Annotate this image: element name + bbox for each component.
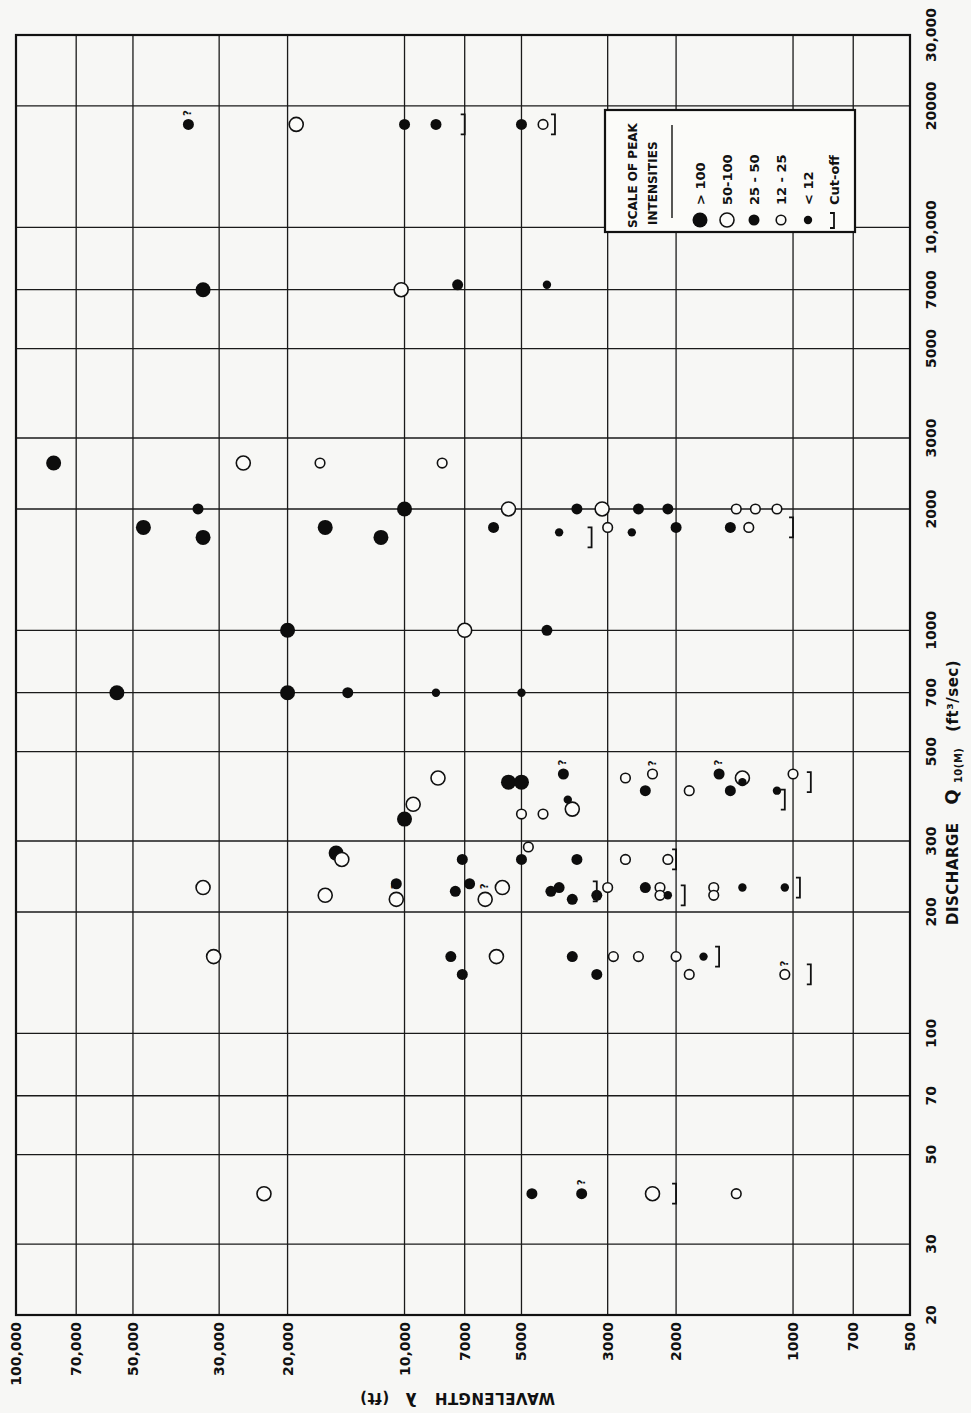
data-point-small-filled	[738, 883, 746, 891]
svg-text:?: ?	[479, 883, 490, 889]
svg-text:10,000: 10,000	[397, 1322, 413, 1376]
cutoff-bracket	[715, 947, 719, 967]
legend-label: < 12	[801, 171, 816, 205]
wavelength-title-text: WAVELENGTH	[434, 1389, 555, 1407]
data-point-large-filled	[514, 775, 529, 790]
data-point-small-open	[538, 809, 548, 819]
wavelength-tick: 7000	[457, 1322, 473, 1361]
discharge-tick: 20	[923, 1305, 939, 1325]
cutoff-brackets	[461, 114, 811, 1203]
discharge-tick: 1000	[923, 611, 939, 650]
uncertain-mark: ?	[557, 759, 568, 765]
cutoff-bracket	[807, 964, 811, 984]
data-point-medium-filled	[450, 886, 461, 897]
svg-text:7000: 7000	[457, 1322, 473, 1361]
data-point-small-open	[684, 786, 694, 796]
data-point-large-filled	[280, 685, 295, 700]
data-point-medium-filled	[662, 503, 673, 514]
legend-label: 12 - 25	[774, 154, 789, 205]
data-point-medium-filled	[725, 785, 736, 796]
log-log-scatter-chart: 2030507010020030050070010002000300050007…	[0, 0, 971, 1413]
data-point-small-open	[648, 769, 658, 779]
data-point-large-open	[207, 950, 221, 964]
data-point-small-filled	[664, 891, 672, 899]
data-point-small-open	[731, 504, 741, 514]
svg-text:WAVELENGTH λ (ft): WAVELENGTH λ (ft)	[360, 1389, 555, 1410]
data-point-large-open	[394, 283, 408, 297]
data-point-large-open	[257, 1187, 271, 1201]
wavelength-tick: 10,000	[397, 1322, 413, 1376]
wavelength-tick-labels: 100,00070,00050,00030,00020,00010,000700…	[8, 1322, 918, 1386]
data-point-large-open	[431, 771, 445, 785]
data-point-small-open	[634, 952, 644, 962]
wavelength-tick: 5000	[513, 1322, 529, 1361]
svg-text:?: ?	[779, 961, 790, 967]
wavelength-symbol: λ	[405, 1389, 417, 1410]
legend-label: > 100	[693, 162, 708, 205]
data-point-small-filled	[432, 689, 440, 697]
legend-symbol-icon	[749, 215, 760, 226]
discharge-tick: 50	[923, 1145, 939, 1165]
data-point-medium-filled	[516, 119, 527, 130]
svg-text:?: ?	[557, 759, 568, 765]
data-point-small-filled	[564, 795, 572, 803]
svg-text:20000: 20000	[923, 81, 939, 130]
wavelength-tick: 100,000	[8, 1322, 24, 1386]
data-point-medium-filled	[725, 522, 736, 533]
data-point-small-filled	[773, 786, 781, 794]
data-point-medium-filled	[571, 503, 582, 514]
cutoff-bracket	[551, 114, 555, 134]
svg-text:5000: 5000	[923, 329, 939, 368]
data-point-large-filled	[397, 501, 412, 516]
svg-text:?: ?	[647, 760, 658, 766]
data-point-large-filled	[109, 685, 124, 700]
data-point-small-filled	[628, 528, 636, 536]
data-point-large-filled	[196, 282, 211, 297]
legend-title-1: SCALE OF PEAK	[626, 122, 640, 228]
data-point-small-open	[744, 523, 754, 533]
data-point-small-open	[731, 1189, 741, 1199]
svg-text:500: 500	[923, 737, 939, 766]
data-point-small-open	[655, 891, 665, 901]
legend-symbol-icon	[693, 213, 708, 228]
discharge-tick: 10,000	[923, 200, 939, 254]
svg-text:70,000: 70,000	[68, 1322, 84, 1376]
data-point-small-open	[603, 883, 613, 893]
svg-text:3000: 3000	[600, 1322, 616, 1361]
svg-text:30: 30	[923, 1234, 939, 1254]
data-point-small-open	[709, 891, 719, 901]
discharge-title-text: DISCHARGE	[944, 822, 962, 925]
svg-text:2000: 2000	[668, 1322, 684, 1361]
data-point-small-open	[684, 970, 694, 980]
data-point-small-open	[621, 855, 631, 865]
data-point-small-open	[538, 120, 548, 130]
cutoff-bracket	[672, 1184, 676, 1204]
data-point-large-open	[595, 502, 609, 516]
legend-label: Cut-off	[827, 155, 842, 205]
cutoff-bracket	[588, 527, 592, 547]
data-point-large-open	[406, 797, 420, 811]
data-point-small-open	[621, 773, 631, 783]
discharge-tick: 20000	[923, 81, 939, 130]
data-point-large-filled	[397, 812, 412, 827]
data-point-large-open	[565, 802, 579, 816]
data-point-large-filled	[196, 530, 211, 545]
legend-symbol-icon	[776, 215, 786, 225]
legend-entry: 50-100	[720, 154, 735, 227]
data-point-medium-filled	[342, 687, 353, 698]
wavelength-tick: 30,000	[211, 1322, 227, 1376]
svg-text:300: 300	[923, 826, 939, 855]
discharge-tick: 30	[923, 1234, 939, 1254]
legend-title-2: INTENSITIES	[646, 141, 660, 225]
data-point-medium-filled	[567, 894, 578, 905]
data-point-large-open	[458, 623, 472, 637]
wavelength-tick: 500	[902, 1322, 918, 1351]
data-point-large-open	[289, 117, 303, 131]
svg-text:500: 500	[902, 1322, 918, 1351]
data-point-large-open	[478, 892, 492, 906]
svg-text:50: 50	[923, 1145, 939, 1165]
discharge-tick: 70	[923, 1086, 939, 1106]
svg-text:?: ?	[576, 1179, 587, 1185]
data-point-medium-filled	[640, 785, 651, 796]
data-point-medium-filled	[457, 854, 468, 865]
